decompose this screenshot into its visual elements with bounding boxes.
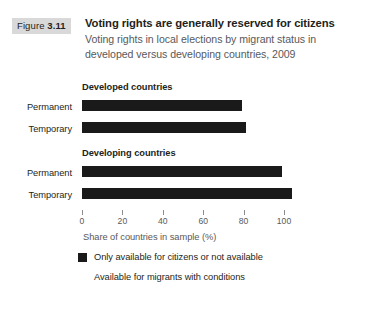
bar-developed-temporary bbox=[82, 122, 246, 133]
group-heading-developing: Developing countries bbox=[82, 148, 176, 158]
x-axis-title: Share of countries in sample (%) bbox=[83, 232, 216, 242]
x-axis-tick bbox=[82, 210, 83, 215]
x-axis-tick-label: 100 bbox=[277, 216, 291, 226]
chart-plot-area: Developed countries Permanent Temporary … bbox=[0, 80, 366, 230]
legend-item-citizens-only: Only available for citizens or not avail… bbox=[78, 250, 358, 270]
legend-swatch-icon-citizens-only bbox=[78, 253, 87, 262]
row-label-developed-permanent: Permanent bbox=[0, 102, 72, 112]
x-axis: 020406080100 bbox=[82, 210, 294, 211]
x-axis-tick-label: 80 bbox=[239, 216, 249, 226]
bar-developing-temporary bbox=[82, 188, 292, 199]
bar-developing-permanent bbox=[82, 166, 282, 177]
x-axis-tick-label: 20 bbox=[118, 216, 128, 226]
legend-swatch-icon-migrants-conditions bbox=[78, 273, 87, 282]
figure-badge-word: Figure bbox=[17, 20, 45, 31]
title-block: Voting rights are generally reserved for… bbox=[85, 16, 357, 62]
legend-label-citizens-only: Only available for citizens or not avail… bbox=[94, 250, 263, 264]
bar-developed-permanent bbox=[82, 100, 242, 111]
x-axis-tick bbox=[163, 210, 164, 215]
figure-container: Figure 3.11 Voting rights are generally … bbox=[0, 0, 366, 336]
bar-track-developing-temporary bbox=[82, 188, 284, 199]
row-label-developing-permanent: Permanent bbox=[0, 168, 72, 178]
group-heading-developed: Developed countries bbox=[82, 82, 173, 92]
bar-track-developed-temporary bbox=[82, 122, 284, 133]
figure-subtitle: Voting rights in local elections by migr… bbox=[85, 32, 357, 62]
legend-label-migrants-conditions: Available for migrants with conditions bbox=[94, 270, 245, 284]
x-axis-tick-label: 60 bbox=[198, 216, 208, 226]
legend-item-migrants-conditions: Available for migrants with conditions bbox=[78, 270, 358, 290]
x-axis-tick bbox=[244, 210, 245, 215]
figure-title: Voting rights are generally reserved for… bbox=[85, 16, 357, 30]
figure-subtitle-line-1: Voting rights in local elections by migr… bbox=[85, 32, 357, 47]
bar-track-developing-permanent bbox=[82, 166, 284, 177]
figure-subtitle-line-2: developed versus developing countries, 2… bbox=[85, 47, 357, 62]
x-axis-tick-label: 40 bbox=[158, 216, 168, 226]
x-axis-tick-label: 0 bbox=[80, 216, 85, 226]
figure-number-badge: Figure 3.11 bbox=[12, 18, 71, 34]
x-axis-tick bbox=[284, 210, 285, 215]
x-axis-tick bbox=[122, 210, 123, 215]
bar-track-developed-permanent bbox=[82, 100, 284, 111]
row-label-developing-temporary: Temporary bbox=[0, 190, 72, 200]
figure-badge-number: 3.11 bbox=[47, 20, 65, 31]
row-label-developed-temporary: Temporary bbox=[0, 124, 72, 134]
x-axis-tick bbox=[203, 210, 204, 215]
chart-legend: Only available for citizens or not avail… bbox=[78, 250, 358, 290]
